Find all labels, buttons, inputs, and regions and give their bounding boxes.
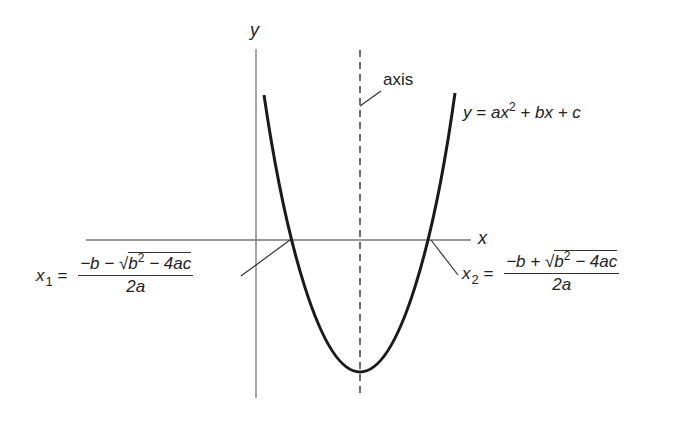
root2-formula: x2 = −b + √b2 − 4ac 2a [462, 252, 619, 295]
root1-leader [241, 240, 290, 276]
axis-of-symmetry-label: axis [383, 70, 413, 90]
curve-equation-label: y = ax2 + bx + c [463, 103, 581, 123]
root2-fraction: −b + √b2 − 4ac 2a [504, 252, 619, 295]
eq-lhs: y [463, 103, 472, 122]
sqrt-icon: √ [119, 254, 128, 273]
eq-a: a [491, 103, 500, 122]
eq-exponent: 2 [509, 100, 516, 114]
axis-label-leader [360, 91, 381, 106]
root1-radicand: b2 − 4ac [128, 252, 191, 273]
root2-radicand: b2 − 4ac [554, 250, 617, 271]
root1-var: x [36, 266, 45, 285]
x-axis-label: x [478, 228, 487, 249]
eq-rest: + bx + c [520, 103, 580, 122]
root2-var: x [462, 264, 471, 283]
root2-numerator: −b + √b2 − 4ac [504, 252, 619, 274]
sqrt-icon: √ [545, 252, 554, 271]
root1-numerator: −b − √b2 − 4ac [78, 254, 193, 276]
y-axis-label: y [250, 20, 259, 41]
root2-subscript: 2 [472, 272, 479, 287]
root2-num-pre: −b + [506, 252, 540, 271]
root2-equals: = [483, 264, 493, 283]
root1-formula: x1 = −b − √b2 − 4ac 2a [36, 254, 193, 297]
root1-fraction: −b − √b2 − 4ac 2a [78, 254, 193, 297]
eq-x: x [500, 103, 509, 122]
root1-equals: = [57, 266, 67, 285]
parabola-diagram [0, 0, 688, 421]
root1-num-pre: −b − [80, 254, 114, 273]
root1-denominator: 2a [78, 276, 193, 297]
root2-denominator: 2a [504, 274, 619, 295]
eq-equals: = [476, 103, 486, 122]
root2-leader [431, 240, 458, 275]
root1-subscript: 1 [46, 274, 53, 289]
